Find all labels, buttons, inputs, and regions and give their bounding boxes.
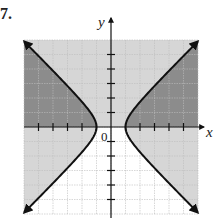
y-axis-label: y: [96, 14, 105, 30]
origin-label: 0: [101, 129, 108, 144]
graph: x y 0: [0, 0, 222, 220]
x-axis-label: x: [205, 124, 213, 140]
